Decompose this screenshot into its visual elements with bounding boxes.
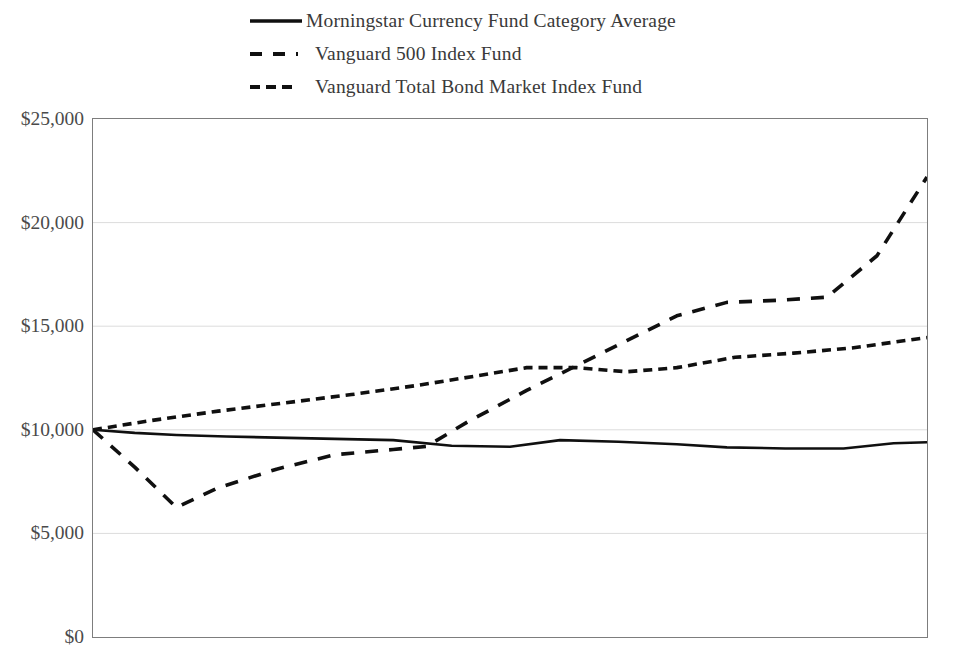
y-axis-tick-labels: $0$5,000$10,000$15,000$20,000$25,000 [0,0,84,653]
legend-item-vanguard-total-bond: Vanguard Total Bond Market Index Fund [250,70,950,103]
legend-swatch-dashed-long-icon [250,47,306,61]
gridlines [93,223,927,534]
legend-swatch-dashed-short-icon [250,80,306,94]
y-axis-tick-label: $15,000 [0,316,84,336]
series-line-morningstar-currency-fund-category-average [93,430,927,449]
legend-label-vanguard-500: Vanguard 500 Index Fund [315,44,522,64]
series-line-vanguard-total-bond-market-index-fund [93,338,927,430]
data-series-group [93,177,927,507]
legend-swatch-solid-icon [250,14,306,28]
y-axis-tick-label: $25,000 [0,109,84,129]
y-axis-tick-label: $20,000 [0,213,84,233]
line-chart: Morningstar Currency Fund Category Avera… [0,0,962,653]
series-line-vanguard-500-index-fund [93,177,927,507]
plot-canvas [93,119,927,637]
legend-item-currency-average: Morningstar Currency Fund Category Avera… [250,4,950,37]
y-axis-tick-label: $5,000 [0,524,84,544]
y-axis-tick-label: $10,000 [0,420,84,440]
legend-label-currency-average: Morningstar Currency Fund Category Avera… [306,11,676,31]
plot-area [92,118,928,638]
legend-item-vanguard-500: Vanguard 500 Index Fund [250,37,950,70]
y-axis-tick-label: $0 [0,627,84,647]
chart-legend: Morningstar Currency Fund Category Avera… [250,4,950,103]
legend-label-vanguard-total-bond: Vanguard Total Bond Market Index Fund [315,77,642,97]
